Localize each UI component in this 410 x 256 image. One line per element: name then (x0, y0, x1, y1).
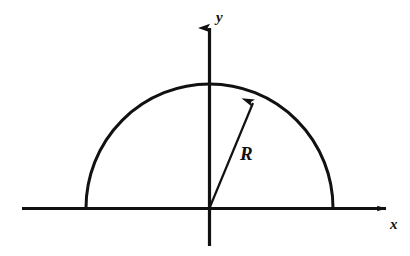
figure-svg: y x R (0, 0, 410, 256)
x-axis-label: x (389, 216, 398, 232)
semicircle-figure: y x R (0, 0, 410, 256)
y-axis-label: y (214, 9, 223, 25)
radius-label: R (239, 143, 253, 164)
